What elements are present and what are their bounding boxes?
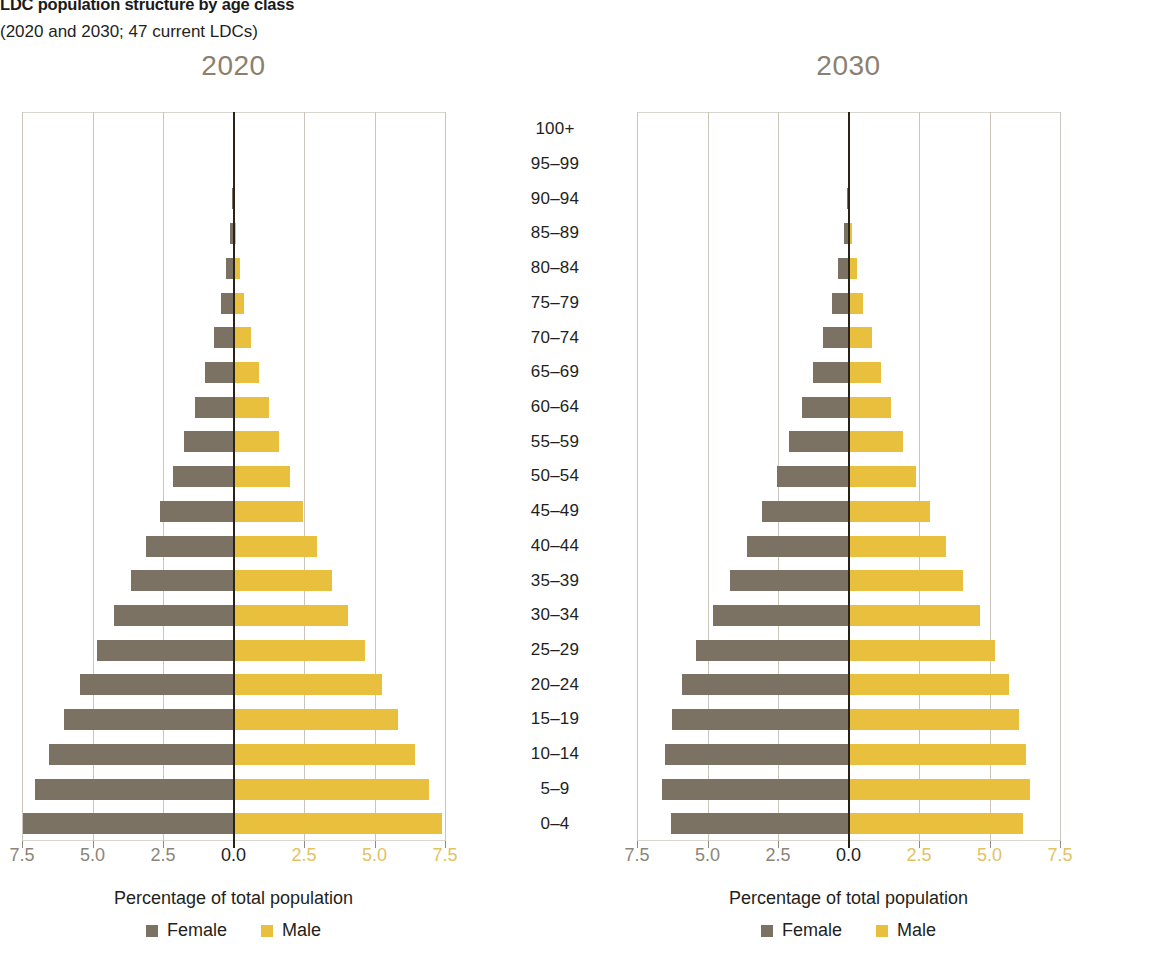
bar-female-50-54 bbox=[173, 466, 234, 487]
bar-female-50-54 bbox=[777, 466, 849, 487]
age-class-label: 85–89 bbox=[490, 223, 620, 243]
bar-male-45-49 bbox=[234, 501, 303, 522]
zero-axis-line bbox=[233, 112, 235, 841]
bar-female-75-79 bbox=[832, 293, 849, 314]
bar-female-20-24 bbox=[80, 674, 234, 695]
x-tick-label: 7.5 bbox=[624, 845, 649, 866]
age-class-label: 25–29 bbox=[490, 640, 620, 660]
bar-male-60-64 bbox=[849, 397, 892, 418]
legend-item-female: Female bbox=[761, 920, 842, 941]
x-tick-labels-2030: 7.55.02.50.02.55.07.5 bbox=[637, 845, 1060, 875]
x-tick-label: 2.5 bbox=[150, 845, 175, 866]
x-tick-label: 0.0 bbox=[836, 845, 861, 866]
bar-female-0-4 bbox=[23, 813, 233, 834]
age-class-row: 50–54 bbox=[490, 459, 620, 494]
panel-2020: 2020 bbox=[22, 112, 445, 841]
legend-label-female: Female bbox=[167, 920, 227, 941]
x-tick-label: 7.5 bbox=[432, 845, 457, 866]
bar-female-5-9 bbox=[35, 779, 234, 800]
age-class-row: 70–74 bbox=[490, 320, 620, 355]
legend-label-male: Male bbox=[282, 920, 321, 941]
legend-item-male: Male bbox=[261, 920, 321, 941]
legend-item-male: Male bbox=[876, 920, 936, 941]
bar-female-70-74 bbox=[214, 327, 234, 348]
legend-2030: Female Male bbox=[637, 920, 1060, 941]
bar-female-70-74 bbox=[823, 327, 849, 348]
bar-male-15-19 bbox=[849, 709, 1020, 730]
gridline bbox=[1060, 112, 1061, 841]
bar-male-35-39 bbox=[234, 570, 333, 591]
bar-female-60-64 bbox=[195, 397, 233, 418]
x-tick-label: 7.5 bbox=[1047, 845, 1072, 866]
bar-male-0-4 bbox=[234, 813, 443, 834]
bar-male-65-69 bbox=[234, 362, 260, 383]
bar-male-60-64 bbox=[234, 397, 269, 418]
age-class-label: 40–44 bbox=[490, 536, 620, 556]
bar-female-55-59 bbox=[789, 431, 848, 452]
age-class-row: 45–49 bbox=[490, 494, 620, 529]
bar-male-20-24 bbox=[849, 674, 1010, 695]
bar-female-60-64 bbox=[802, 397, 849, 418]
bar-female-40-44 bbox=[146, 536, 233, 557]
bar-female-25-29 bbox=[696, 640, 848, 661]
figure-subtitle: (2020 and 2030; 47 current LDCs) bbox=[0, 22, 258, 42]
age-class-row: 95–99 bbox=[490, 147, 620, 182]
bar-male-50-54 bbox=[234, 466, 290, 487]
gridline bbox=[445, 112, 446, 841]
x-tick-label: 2.5 bbox=[765, 845, 790, 866]
bar-male-45-49 bbox=[849, 501, 931, 522]
x-tick-label: 5.0 bbox=[80, 845, 105, 866]
bar-male-5-9 bbox=[849, 779, 1031, 800]
age-class-row: 75–79 bbox=[490, 286, 620, 321]
age-class-row: 60–64 bbox=[490, 390, 620, 425]
age-class-row: 90–94 bbox=[490, 181, 620, 216]
bar-male-30-34 bbox=[234, 605, 348, 626]
bar-male-55-59 bbox=[234, 431, 280, 452]
bar-male-75-79 bbox=[849, 293, 864, 314]
bar-male-20-24 bbox=[234, 674, 382, 695]
legend-swatch-male-icon bbox=[876, 925, 888, 937]
bar-female-45-49 bbox=[160, 501, 233, 522]
age-class-label: 100+ bbox=[490, 119, 620, 139]
age-class-label: 55–59 bbox=[490, 432, 620, 452]
bar-male-40-44 bbox=[849, 536, 946, 557]
age-class-label: 10–14 bbox=[490, 744, 620, 764]
bar-female-65-69 bbox=[205, 362, 233, 383]
bar-female-25-29 bbox=[97, 640, 234, 661]
bar-female-30-34 bbox=[713, 605, 848, 626]
legend-swatch-male-icon bbox=[261, 925, 273, 937]
age-class-label: 0–4 bbox=[490, 814, 620, 834]
age-class-label: 15–19 bbox=[490, 709, 620, 729]
x-tick-label: 5.0 bbox=[695, 845, 720, 866]
panel-title-2020: 2020 bbox=[22, 50, 445, 82]
x-tick-label: 0.0 bbox=[221, 845, 246, 866]
age-class-label: 80–84 bbox=[490, 258, 620, 278]
age-class-row: 25–29 bbox=[490, 633, 620, 668]
bar-male-25-29 bbox=[234, 640, 365, 661]
bar-female-45-49 bbox=[762, 501, 848, 522]
bar-female-10-14 bbox=[49, 744, 234, 765]
age-class-axis: 100+95–9990–9485–8980–8475–7970–7465–696… bbox=[490, 112, 620, 841]
legend-swatch-female-icon bbox=[146, 925, 158, 937]
panel-title-2030: 2030 bbox=[637, 50, 1060, 82]
age-class-row: 10–14 bbox=[490, 737, 620, 772]
age-class-label: 90–94 bbox=[490, 189, 620, 209]
bar-male-75-79 bbox=[234, 293, 245, 314]
age-class-row: 100+ bbox=[490, 112, 620, 147]
age-class-label: 20–24 bbox=[490, 675, 620, 695]
bar-male-70-74 bbox=[849, 327, 872, 348]
bar-female-35-39 bbox=[131, 570, 234, 591]
x-tick-label: 5.0 bbox=[977, 845, 1002, 866]
age-class-row: 80–84 bbox=[490, 251, 620, 286]
bar-male-55-59 bbox=[849, 431, 904, 452]
zero-axis-line bbox=[848, 112, 850, 841]
legend-item-female: Female bbox=[146, 920, 227, 941]
bar-female-65-69 bbox=[813, 362, 848, 383]
age-class-row: 15–19 bbox=[490, 702, 620, 737]
bar-male-25-29 bbox=[849, 640, 996, 661]
age-class-row: 30–34 bbox=[490, 598, 620, 633]
age-class-label: 75–79 bbox=[490, 293, 620, 313]
legend-label-female: Female bbox=[782, 920, 842, 941]
age-class-row: 0–4 bbox=[490, 806, 620, 841]
x-tick-labels-2020: 7.55.02.50.02.55.07.5 bbox=[22, 845, 445, 875]
